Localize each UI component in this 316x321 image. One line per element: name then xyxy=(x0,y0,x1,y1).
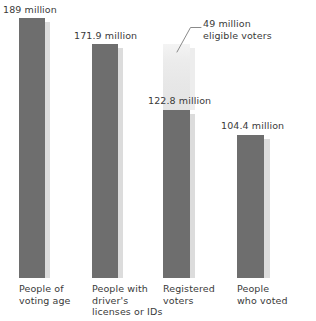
category-line-1: People with xyxy=(92,283,166,295)
bar-shadow-people-of-voting-age xyxy=(45,22,50,278)
category-line-2: driver's xyxy=(92,295,166,307)
category-line-2: who voted xyxy=(237,295,309,307)
category-label-people-with-licenses: People with driver's licenses or IDs xyxy=(92,283,166,318)
value-label-people-of-voting-age: 189 million xyxy=(3,4,57,15)
category-line-3: licenses or IDs xyxy=(92,306,166,318)
bar-people-of-voting-age[interactable] xyxy=(19,18,45,278)
bar-people-who-voted[interactable] xyxy=(237,135,264,278)
value-label-people-who-voted: 104.4 million xyxy=(221,120,284,131)
annotation-line-2: eligible voters xyxy=(203,30,272,42)
bar-shadow-people-who-voted xyxy=(264,139,270,278)
chart-canvas: 189 million People of voting age 171.9 m… xyxy=(0,0,316,321)
annotation-eligible-voters: 49 million eligible voters xyxy=(203,18,272,41)
category-label-people-of-voting-age: People of voting age xyxy=(19,283,91,306)
annotation-line-1: 49 million xyxy=(203,18,272,30)
category-line-1: Registered xyxy=(163,283,235,295)
category-label-registered-voters: Registered voters xyxy=(163,283,235,306)
bar-people-with-licenses[interactable] xyxy=(92,44,118,278)
category-label-people-who-voted: People who voted xyxy=(237,283,309,306)
category-line-2: voters xyxy=(163,295,235,307)
value-label-people-with-licenses: 171.9 million xyxy=(74,30,137,41)
category-line-1: People xyxy=(237,283,309,295)
bar-shadow-registered-voters xyxy=(190,114,195,278)
value-label-registered-voters: 122.8 million xyxy=(148,95,211,106)
category-line-1: People of xyxy=(19,283,91,295)
bar-shadow-people-with-licenses xyxy=(118,48,123,278)
bar-registered-voters[interactable] xyxy=(163,110,190,278)
category-line-2: voting age xyxy=(19,295,91,307)
